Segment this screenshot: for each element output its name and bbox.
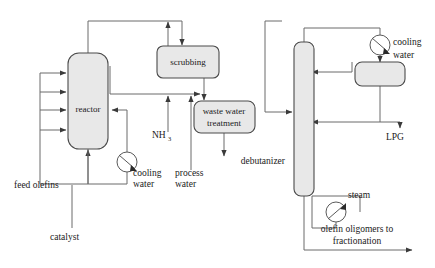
waste-water-treatment-label-line2: treatment xyxy=(207,118,241,128)
olefin-oligomers-label-line1: olefin oligomers to xyxy=(321,224,394,234)
waste-water-treatment-label-line1: waste water xyxy=(203,106,246,116)
debutanizer-label: debutanizer xyxy=(241,156,286,166)
ammonia-label-main: NH xyxy=(152,130,166,140)
reactor-vessel[interactable] xyxy=(68,53,108,149)
process-water-label-line2: water xyxy=(175,179,197,189)
feed-olefins-label: feed olefins xyxy=(14,180,59,190)
cooling-water-reactor-label-line2: water xyxy=(133,179,155,189)
ammonia-label-sub: 3 xyxy=(168,135,171,142)
olefin-oligomers-label-line2: fractionation xyxy=(333,236,382,246)
heat-exchanger-reboiler[interactable] xyxy=(326,202,346,222)
process-flow-diagram: reactor scrubbing waste water treatment … xyxy=(0,0,435,268)
heat-exchanger-condenser[interactable] xyxy=(370,35,390,55)
cooling-water-condenser-label-line2: water xyxy=(393,50,415,60)
cooling-water-reactor-label-line1: cooling xyxy=(133,168,162,178)
reactor-label: reactor xyxy=(76,104,101,114)
reflux-drum-vessel[interactable] xyxy=(355,62,405,86)
catalyst-label: catalyst xyxy=(50,232,79,242)
steam-label: steam xyxy=(348,190,371,200)
process-water-label-line1: process xyxy=(175,168,204,178)
scrubbing-label: scrubbing xyxy=(170,57,206,67)
cooling-water-condenser-label-line1: cooling xyxy=(393,37,422,47)
debutanizer-vessel[interactable] xyxy=(294,42,314,196)
lpg-label: LPG xyxy=(386,132,404,142)
pfd-canvas: reactor scrubbing waste water treatment … xyxy=(0,0,435,268)
